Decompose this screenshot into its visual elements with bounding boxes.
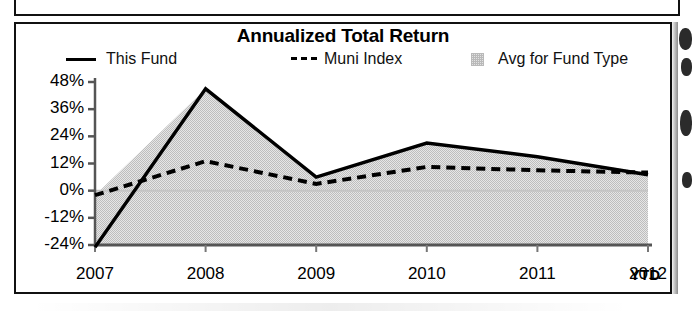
- scan-artifact: [679, 28, 692, 50]
- scan-artifact: [681, 58, 692, 76]
- chart-plot-area: [0, 0, 695, 317]
- scan-artifact: [30, 303, 630, 311]
- scan-artifact: [682, 172, 692, 188]
- scan-artifact: [680, 110, 692, 136]
- scan-edge-shadow: [672, 22, 678, 294]
